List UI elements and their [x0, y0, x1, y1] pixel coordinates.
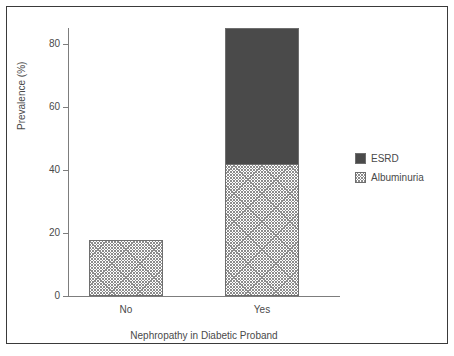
y-tick-label-20: 20 [49, 226, 60, 239]
bar-segment-yes-esrd[interactable] [225, 28, 299, 165]
figure-border-left [6, 6, 7, 344]
x-tick-label-no: No [89, 304, 163, 315]
y-tick-label-40: 40 [49, 163, 60, 176]
figure-border-bottom [6, 343, 448, 344]
y-tick-label-0: 0 [54, 289, 60, 302]
legend-label-albuminuria: Albuminuria [371, 172, 424, 183]
legend-item-albuminuria[interactable]: Albuminuria [355, 171, 424, 184]
y-tick-label-80: 80 [49, 37, 60, 50]
legend-swatch-albuminuria [355, 172, 366, 183]
y-tick-40: 40 [68, 170, 69, 171]
figure-panel: Prevalence (%) 0 20 40 60 80 [0, 0, 454, 356]
y-tick-0: 0 [68, 296, 69, 297]
y-tick-mark-60 [63, 107, 68, 108]
bar-segment-no-albuminuria[interactable] [89, 240, 163, 296]
x-axis-title: Nephropathy in Diabetic Proband [68, 330, 340, 341]
legend-item-esrd[interactable]: ESRD [355, 152, 424, 165]
figure-border-top [6, 6, 448, 7]
y-tick-mark-80 [63, 44, 68, 45]
y-tick-mark-0 [63, 296, 68, 297]
bar-group-yes[interactable] [225, 28, 299, 296]
bar-segment-yes-albuminuria[interactable] [225, 164, 299, 296]
y-tick-mark-40 [63, 170, 68, 171]
y-tick-mark-20 [63, 233, 68, 234]
y-tick-80: 80 [68, 44, 69, 45]
y-tick-20: 20 [68, 233, 69, 234]
x-axis-line [68, 296, 340, 297]
bar-group-no[interactable] [89, 28, 163, 296]
figure-border-right [447, 6, 448, 344]
y-tick-60: 60 [68, 107, 69, 108]
legend: ESRD Albuminuria [355, 152, 424, 190]
x-tick-label-yes: Yes [225, 304, 299, 315]
y-axis-line [68, 28, 69, 297]
legend-label-esrd: ESRD [371, 153, 399, 164]
plot-area: 0 20 40 60 80 No Yes Nephropathy in [68, 28, 340, 296]
y-tick-label-60: 60 [49, 100, 60, 113]
y-axis-title: Prevalence (%) [16, 62, 27, 130]
legend-swatch-esrd [355, 153, 366, 164]
